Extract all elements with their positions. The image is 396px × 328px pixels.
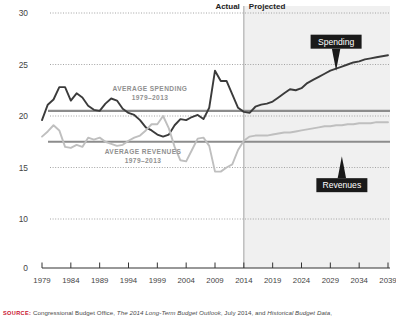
svg-text:AVERAGE SPENDING: AVERAGE SPENDING: [113, 85, 188, 92]
budget-outlook-chart: 30252015100 1979198419891994199920042009…: [0, 0, 396, 328]
svg-text:Projected: Projected: [249, 2, 286, 11]
svg-text:2034: 2034: [350, 276, 368, 285]
svg-text:2029: 2029: [322, 276, 339, 285]
svg-text:2019: 2019: [264, 276, 281, 285]
source-note: SOURCE: Congressional Budget Office, The…: [3, 309, 393, 318]
svg-text:1979: 1979: [33, 276, 50, 285]
source-text-2: , July 2014, and: [221, 309, 266, 316]
svg-text:2004: 2004: [177, 276, 195, 285]
source-text-1: Congressional Budget Office,: [33, 309, 115, 316]
svg-text:Actual: Actual: [215, 2, 239, 11]
y-axis-tick-labels: 30252015100: [19, 8, 29, 273]
svg-text:2024: 2024: [293, 276, 311, 285]
svg-text:2014: 2014: [235, 276, 253, 285]
phase-labels: ActualProjected: [215, 2, 285, 11]
svg-text:15: 15: [19, 163, 29, 173]
svg-text:Spending: Spending: [318, 37, 355, 47]
svg-text:30: 30: [19, 8, 29, 18]
svg-text:1989: 1989: [91, 276, 108, 285]
source-italic-2: Historical Budget Data: [267, 309, 330, 316]
svg-text:1979–2013: 1979–2013: [125, 157, 162, 164]
svg-text:1984: 1984: [62, 276, 80, 285]
x-axis-tick-labels: 1979198419891994199920042009201420192024…: [33, 276, 396, 285]
svg-text:1979–2013: 1979–2013: [132, 94, 169, 101]
svg-text:1994: 1994: [120, 276, 138, 285]
svg-text:0: 0: [23, 263, 28, 273]
svg-text:1999: 1999: [149, 276, 166, 285]
source-text-3: ,: [330, 309, 332, 316]
chart-plot-area: 30252015100 1979198419891994199920042009…: [0, 0, 396, 328]
svg-text:2039: 2039: [379, 276, 396, 285]
source-label: SOURCE:: [3, 310, 31, 316]
source-italic-1: The 2014 Long-Term Budget Outlook: [117, 309, 221, 316]
svg-text:AVERAGE REVENUES: AVERAGE REVENUES: [105, 148, 182, 155]
svg-text:25: 25: [19, 60, 29, 70]
svg-text:2009: 2009: [206, 276, 223, 285]
svg-text:10: 10: [19, 214, 29, 224]
svg-text:Revenues: Revenues: [323, 180, 362, 190]
svg-text:20: 20: [19, 111, 29, 121]
